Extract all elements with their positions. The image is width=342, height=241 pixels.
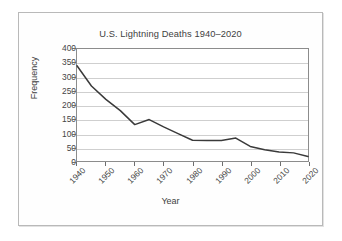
y-axis-tick-labels: 050100150200250300350400 — [38, 48, 76, 162]
x-tick-label: 1970 — [147, 166, 175, 194]
data-series-line — [77, 49, 308, 161]
x-tick-label: 1960 — [118, 166, 146, 194]
y-tick-label: 100 — [42, 129, 76, 137]
x-axis-title: Year — [19, 196, 322, 206]
y-tick-label: 300 — [42, 72, 76, 80]
chart-title: U.S. Lightning Deaths 1940–2020 — [19, 29, 322, 39]
x-tick-label: 2010 — [264, 166, 292, 194]
x-tick-label: 2000 — [235, 166, 263, 194]
y-tick-label: 0 — [42, 158, 76, 166]
x-tick-label: 2020 — [293, 166, 321, 194]
y-tick-label: 150 — [42, 115, 76, 123]
y-tick-label: 200 — [42, 101, 76, 109]
y-tick-label: 350 — [42, 58, 76, 66]
plot-area — [76, 48, 309, 162]
x-tick-label: 1980 — [176, 166, 204, 194]
x-tick-label: 1990 — [205, 166, 233, 194]
y-tick-label: 250 — [42, 87, 76, 95]
figure-frame: U.S. Lightning Deaths 1940–2020 Frequenc… — [18, 12, 323, 226]
y-tick-label: 400 — [42, 44, 76, 52]
x-tick-label: 1940 — [60, 166, 88, 194]
x-tick-label: 1950 — [89, 166, 117, 194]
x-tick-mark — [309, 162, 310, 166]
x-axis-tick-labels: 194019501960197019801990200020102020 — [76, 166, 309, 200]
y-tick-label: 50 — [42, 144, 76, 152]
